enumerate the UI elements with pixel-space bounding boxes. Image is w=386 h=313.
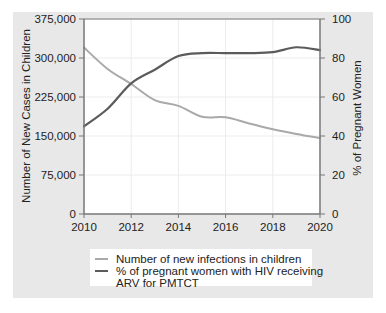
legend-swatch (95, 270, 108, 272)
legend-label: Number of new infections in children (116, 253, 301, 265)
y2-tick-label: 100 (332, 13, 351, 25)
legend-label: ARV for PMTCT (116, 277, 199, 289)
legend-label: % of pregnant women with HIV receiving (116, 265, 323, 277)
x-tick-label: 2018 (260, 221, 286, 233)
y-axis-right-label: % of Pregnant Women (351, 60, 363, 176)
legend: Number of new infections in children% of… (90, 249, 312, 286)
y-tick-label: 300,000 (34, 52, 76, 64)
legend-swatch (95, 258, 108, 260)
x-tick-label: 2020 (307, 221, 333, 233)
y-tick-label: 75,000 (41, 169, 76, 181)
y2-tick-label: 20 (332, 169, 345, 181)
y-tick-label: 375,000 (34, 13, 76, 25)
y-tick-label: 150,000 (34, 130, 76, 142)
y-axis-left-label: Number of New Cases in Children (20, 29, 32, 203)
x-tick-label: 2012 (118, 221, 144, 233)
x-tick-label: 2014 (166, 221, 192, 233)
x-tick-label: 2016 (213, 221, 239, 233)
y-tick-label: 0 (70, 208, 76, 220)
y-tick-label: 225,000 (34, 91, 76, 103)
y2-tick-label: 40 (332, 130, 345, 142)
y2-tick-label: 60 (332, 91, 345, 103)
x-tick-label: 2010 (71, 221, 97, 233)
y2-tick-label: 0 (332, 208, 338, 220)
y2-tick-label: 80 (332, 52, 345, 64)
